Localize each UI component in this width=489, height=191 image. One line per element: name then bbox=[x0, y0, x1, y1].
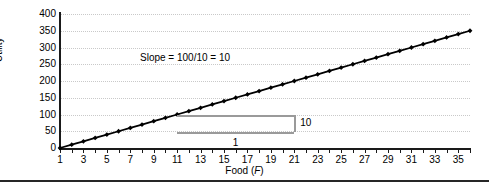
data-point-marker bbox=[409, 45, 414, 50]
data-point-marker bbox=[432, 38, 437, 43]
utility-food-chart: 050100150200250300350400 135791113151719… bbox=[0, 0, 489, 191]
data-point-marker bbox=[292, 79, 297, 84]
data-point-marker bbox=[374, 55, 379, 60]
data-point-marker bbox=[421, 42, 426, 47]
data-point-marker bbox=[339, 65, 344, 70]
data-point-marker bbox=[386, 52, 391, 57]
data-point-marker bbox=[69, 142, 74, 147]
data-point-marker bbox=[58, 146, 63, 151]
slope-top-line bbox=[177, 115, 294, 117]
data-point-marker bbox=[456, 32, 461, 37]
data-point-marker bbox=[151, 119, 156, 124]
series-line bbox=[60, 31, 470, 148]
data-point-marker bbox=[350, 62, 355, 67]
data-point-marker bbox=[198, 105, 203, 110]
data-point-marker bbox=[210, 102, 215, 107]
data-point-marker bbox=[327, 69, 332, 74]
data-point-marker bbox=[444, 35, 449, 40]
data-series-layer bbox=[0, 0, 489, 191]
data-point-marker bbox=[468, 28, 473, 33]
data-point-marker bbox=[362, 59, 367, 64]
data-point-marker bbox=[222, 99, 227, 104]
data-point-marker bbox=[245, 92, 250, 97]
data-point-marker bbox=[116, 129, 121, 134]
data-point-marker bbox=[128, 126, 133, 131]
data-point-marker bbox=[163, 115, 168, 120]
data-point-marker bbox=[233, 95, 238, 100]
data-point-marker bbox=[104, 132, 109, 137]
data-point-marker bbox=[315, 72, 320, 77]
data-point-marker bbox=[280, 82, 285, 87]
data-point-marker bbox=[257, 89, 262, 94]
data-point-marker bbox=[93, 136, 98, 141]
data-point-marker bbox=[186, 109, 191, 114]
data-point-marker bbox=[140, 122, 145, 127]
data-point-marker bbox=[304, 75, 309, 80]
data-point-marker bbox=[268, 85, 273, 90]
data-point-marker bbox=[397, 48, 402, 53]
data-point-marker bbox=[81, 139, 86, 144]
bottom-divider-rule bbox=[0, 180, 489, 182]
